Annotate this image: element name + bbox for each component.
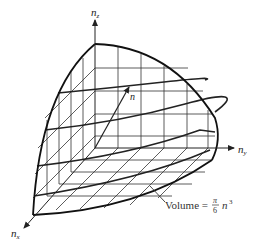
- sphere-outline: [33, 44, 218, 215]
- svg-text:Volume =: Volume =: [165, 199, 208, 211]
- label-nz: nz: [91, 6, 100, 20]
- volume-leader: [150, 186, 165, 202]
- label-vector-n: n: [130, 91, 135, 102]
- axes: [24, 20, 234, 228]
- label-ny: ny: [238, 143, 248, 157]
- svg-text:3: 3: [229, 198, 233, 206]
- svg-text:6: 6: [213, 206, 217, 215]
- sphere-octant-diagram: nz ny nx n Volume = π 6 n 3: [0, 0, 259, 244]
- volume-annotation: Volume = π 6 n 3: [165, 196, 233, 215]
- svg-text:π: π: [213, 196, 218, 205]
- label-nx: nx: [11, 227, 21, 241]
- svg-text:n: n: [222, 199, 228, 211]
